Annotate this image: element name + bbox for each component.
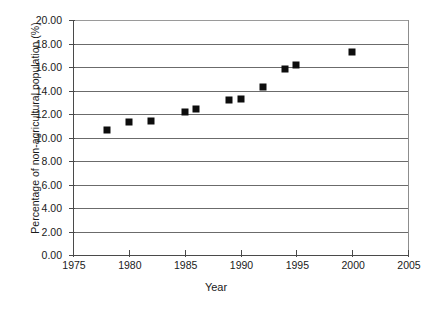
- y-tick-label: 0.00: [42, 249, 62, 262]
- x-tick: 1995: [296, 250, 297, 257]
- gridline: [73, 161, 408, 162]
- x-axis-title: Year: [0, 281, 432, 293]
- x-tick-label: 1985: [174, 259, 197, 272]
- y-tick: 6.00: [69, 185, 75, 186]
- y-tick: 8.00: [69, 161, 75, 162]
- y-tick: 14.00: [69, 91, 75, 92]
- y-tick: 4.00: [69, 208, 75, 209]
- data-point: [226, 96, 233, 103]
- x-tick: 1980: [129, 250, 130, 257]
- y-tick-label: 2.00: [42, 226, 62, 239]
- y-tick: 10.00: [69, 138, 75, 139]
- gridline: [73, 44, 408, 45]
- y-tick: 20.00: [69, 20, 75, 21]
- gridline: [73, 67, 408, 68]
- x-tick-label: 1995: [286, 259, 309, 272]
- y-tick-label: 4.00: [42, 202, 62, 215]
- data-point: [259, 83, 266, 90]
- y-tick: 2.00: [69, 232, 75, 233]
- x-tick: 1975: [73, 250, 74, 257]
- data-point: [181, 108, 188, 115]
- x-tick-label: 1975: [62, 259, 85, 272]
- y-tick-label: 8.00: [42, 155, 62, 168]
- y-tick: 16.00: [69, 67, 75, 68]
- plot-right-border: [408, 20, 409, 256]
- y-tick: 18.00: [69, 44, 75, 45]
- x-tick: 1990: [241, 250, 242, 257]
- data-point: [349, 48, 356, 55]
- x-tick-label: 2005: [397, 259, 420, 272]
- data-point: [125, 119, 132, 126]
- gridline: [73, 20, 408, 21]
- gridline: [73, 91, 408, 92]
- data-point: [282, 66, 289, 73]
- gridline: [73, 138, 408, 139]
- x-tick: 2000: [352, 250, 353, 257]
- data-point: [148, 118, 155, 125]
- gridline: [73, 208, 408, 209]
- y-axis-title: Percentage of non-agricultural populatio…: [29, 8, 41, 248]
- x-tick-label: 1980: [118, 259, 141, 272]
- gridline: [73, 114, 408, 115]
- gridline: [73, 232, 408, 233]
- y-tick-label: 6.00: [42, 179, 62, 192]
- chart-figure: 0.002.004.006.008.0010.0012.0014.0016.00…: [0, 0, 432, 310]
- data-point: [103, 127, 110, 134]
- x-tick: 1985: [185, 250, 186, 257]
- x-tick-label: 1990: [230, 259, 253, 272]
- plot-area: [73, 20, 408, 255]
- x-tick: 2005: [408, 250, 409, 257]
- y-axis-line: 0.002.004.006.008.0010.0012.0014.0016.00…: [73, 20, 74, 256]
- data-point: [192, 106, 199, 113]
- x-tick-label: 2000: [341, 259, 364, 272]
- y-tick: 12.00: [69, 114, 75, 115]
- data-point: [293, 61, 300, 68]
- gridline: [73, 185, 408, 186]
- data-point: [237, 95, 244, 102]
